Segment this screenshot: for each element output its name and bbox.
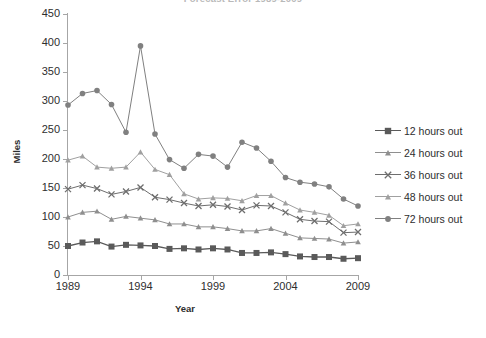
data-point	[254, 145, 260, 151]
data-point	[80, 240, 86, 246]
legend-item-24-hours-out[interactable]: 24 hours out	[375, 142, 485, 164]
data-point	[341, 256, 347, 262]
data-point	[138, 242, 144, 248]
data-point	[283, 209, 289, 215]
data-point	[181, 165, 187, 171]
chart-legend: 12 hours out24 hours out36 hours out48 h…	[375, 120, 485, 230]
data-point	[326, 184, 332, 190]
data-point	[109, 244, 115, 250]
legend-item-72-hours-out[interactable]: 72 hours out	[375, 208, 485, 230]
legend-item-label: 36 hours out	[401, 169, 462, 181]
data-point	[225, 164, 231, 170]
legend-marker-icon	[375, 124, 401, 138]
legend-item-36-hours-out[interactable]: 36 hours out	[375, 164, 485, 186]
data-point	[297, 253, 303, 259]
data-point	[326, 254, 332, 260]
data-point	[80, 153, 86, 158]
data-point	[138, 43, 144, 49]
data-point	[94, 238, 100, 244]
data-point	[268, 159, 274, 165]
data-point	[283, 200, 289, 205]
data-point	[196, 152, 202, 158]
legend-item-12-hours-out[interactable]: 12 hours out	[375, 120, 485, 142]
data-point	[152, 243, 158, 249]
data-point	[297, 207, 303, 212]
series-72-hours-out	[65, 43, 361, 209]
legend-marker-icon	[375, 212, 401, 226]
data-point	[152, 131, 158, 137]
data-point	[312, 254, 318, 260]
data-point	[65, 243, 71, 249]
legend-marker-icon	[375, 190, 401, 204]
data-point	[138, 149, 144, 154]
data-point	[123, 242, 129, 248]
data-point	[65, 186, 71, 192]
legend-marker-icon	[375, 168, 401, 182]
data-point	[297, 179, 303, 185]
data-point	[167, 157, 173, 163]
chart-container: Forecast Error 1989-2009 Miles Year 0501…	[0, 0, 486, 338]
data-point	[65, 102, 71, 108]
data-point	[283, 251, 289, 257]
legend-item-label: 72 hours out	[401, 213, 462, 225]
legend-marker-icon	[375, 146, 401, 160]
data-point	[80, 91, 86, 97]
data-point	[312, 181, 318, 187]
data-point	[341, 196, 347, 202]
series-48-hours-out	[65, 149, 361, 228]
legend-item-label: 48 hours out	[401, 191, 462, 203]
data-point	[254, 250, 260, 256]
data-point	[181, 245, 187, 251]
series-12-hours-out	[65, 238, 361, 261]
data-point	[94, 88, 100, 94]
data-point	[123, 130, 129, 136]
data-point	[196, 246, 202, 252]
data-point	[268, 226, 274, 231]
legend-item-48-hours-out[interactable]: 48 hours out	[375, 186, 485, 208]
data-point	[210, 245, 216, 251]
data-point	[210, 153, 216, 159]
data-point	[109, 102, 115, 108]
data-point	[239, 250, 245, 256]
data-point	[355, 255, 361, 261]
legend-item-label: 24 hours out	[401, 147, 462, 159]
data-point	[239, 139, 245, 145]
data-point	[167, 246, 173, 252]
data-point	[355, 203, 361, 209]
data-point	[268, 249, 274, 255]
data-point	[283, 175, 289, 181]
data-point	[225, 246, 231, 252]
data-point	[138, 184, 144, 190]
legend-item-label: 12 hours out	[401, 125, 462, 137]
